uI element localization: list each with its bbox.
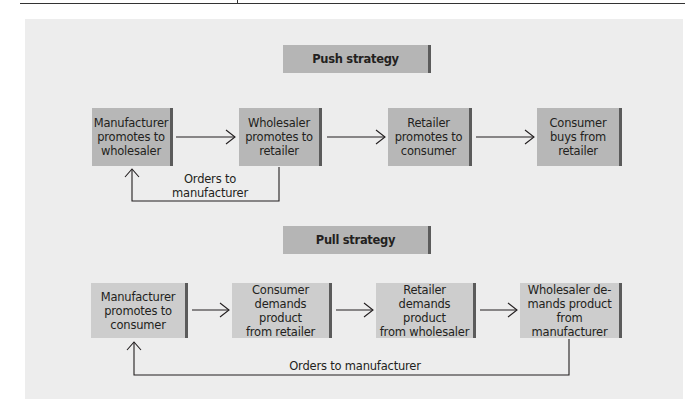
pull-step-consumer: Consumer demands product from retailer [232,283,332,338]
step-line: Manufacturer [101,290,176,304]
step-line: Consumer [232,283,329,297]
push-step-retailer: Retailer promotes to consumer [388,108,472,166]
step-line: promotes to [101,304,176,318]
step-line: Retailer [376,283,473,297]
step-line: Retailer [395,116,463,130]
pull-arrow-2 [336,303,373,317]
step-line: from retailer [232,325,329,339]
push-step-manufacturer: Manufacturer promotes to wholesaler [92,108,173,166]
pull-step-wholesaler: Wholesaler de- mands product from manufa… [520,283,622,338]
push-arrow-2 [327,130,385,144]
feedback-line: Orders to [160,172,260,186]
step-line: Wholesaler [245,116,313,130]
pull-step-manufacturer: Manufacturer promotes to consumer [91,283,188,338]
pull-arrow-1 [192,303,229,317]
pull-strategy-title: Pull strategy [283,226,431,254]
step-line: consumer [101,318,176,332]
pull-strategy-title-text: Pull strategy [316,233,395,247]
step-line: Consumer [549,116,606,130]
feedback-line: manufacturer [160,186,260,200]
pull-arrow-3 [480,303,517,317]
step-line: Manufacturer [94,116,169,130]
pull-feedback-label: Orders to manufacturer [270,359,440,373]
push-strategy-title: Push strategy [283,45,431,73]
step-line: Wholesaler de- [520,283,619,297]
push-strategy-title-text: Push strategy [312,52,399,66]
push-arrow-1 [176,130,235,144]
push-step-wholesaler: Wholesaler promotes to retailer [239,108,322,166]
push-step-consumer: Consumer buys from retailer [537,108,622,166]
step-line: demands product [376,297,473,325]
step-line: buys from [549,130,606,144]
push-arrow-3 [476,130,534,144]
step-line: from manufacturer [520,311,619,339]
step-line: consumer [395,144,463,158]
feedback-line: Orders to manufacturer [270,359,440,373]
step-line: mands product [520,297,619,311]
step-line: demands product [232,297,329,325]
step-line: promotes to [94,130,169,144]
step-line: retailer [245,144,313,158]
step-line: retailer [549,144,606,158]
pull-step-retailer: Retailer demands product from wholesaler [376,283,476,338]
step-line: promotes to [395,130,463,144]
step-line: promotes to [245,130,313,144]
push-feedback-label: Orders to manufacturer [160,172,260,200]
step-line: wholesaler [94,144,169,158]
step-line: from wholesaler [376,325,473,339]
